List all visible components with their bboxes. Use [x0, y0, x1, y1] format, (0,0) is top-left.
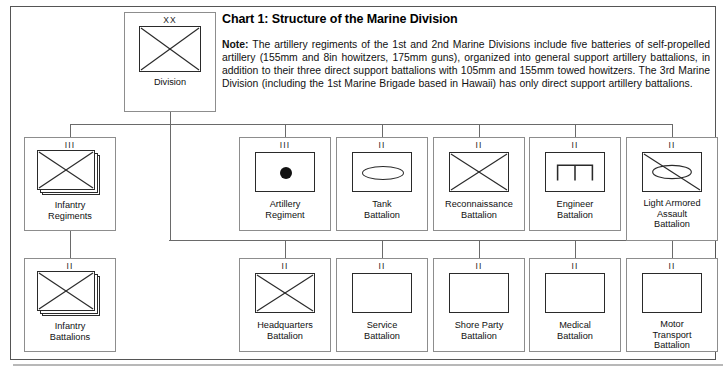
symbol-reconnaissance-battalion [449, 152, 509, 194]
cross-infantry-icon [38, 151, 94, 189]
unit-cell-shore-party-battalion[interactable]: II Shore PartyBattalion [433, 258, 525, 352]
note-label: Note: [222, 39, 249, 50]
symbol-headquarters-battalion [255, 273, 315, 315]
chart-note: Note: The artillery regiments of the 1st… [222, 38, 710, 90]
unit-cell-engineer-battalion[interactable]: II EngineerBattalion [529, 137, 621, 231]
unit-label-medical-battalion: MedicalBattalion [557, 320, 593, 341]
unit-cell-division[interactable]: XX Division [124, 12, 216, 112]
connector-drop-infantry-regiments [70, 124, 71, 137]
echelon-label-light-armored-assault-battalion: II [668, 141, 675, 150]
connector-infantry-regiments-to-battalions [70, 231, 71, 258]
unit-cell-headquarters-battalion[interactable]: II HeadquartersBattalion [239, 258, 331, 352]
unit-cell-reconnaissance-battalion[interactable]: II ReconnaissanceBattalion [433, 137, 525, 231]
cross-infantry-icon [140, 27, 200, 71]
unit-label-infantry-battalions: InfantryBattalions [50, 321, 90, 342]
symbol-shore-party-battalion [449, 273, 509, 315]
echelon-label-shore-party-battalion: II [475, 262, 482, 271]
cross-infantry-icon [256, 274, 314, 312]
unit-cell-infantry-battalions[interactable]: II InfantryBattalions [24, 258, 116, 352]
engineer-bridge-icon [546, 153, 604, 191]
unit-label-service-battalion: ServiceBattalion [364, 320, 400, 341]
unit-cell-medical-battalion[interactable]: II MedicalBattalion [529, 258, 621, 352]
unit-label-headquarters-battalion: HeadquartersBattalion [257, 320, 313, 341]
unit-label-artillery-regiment: ArtilleryRegiment [265, 199, 304, 220]
unit-label-division: Division [154, 77, 186, 88]
ellipse-diagonal-light-armor-icon [643, 153, 701, 191]
plain-box-icon [352, 273, 412, 313]
symbol-division [139, 26, 201, 72]
echelon-label-artillery-regiment: III [280, 141, 291, 150]
connector-bus-level1 [70, 124, 672, 125]
symbol-infantry-regiments [37, 150, 103, 198]
echelon-label-reconnaissance-battalion: II [475, 141, 482, 150]
symbol-infantry-battalions [37, 271, 103, 319]
marine-division-chart: Chart 1: Structure of the Marine Divisio… [0, 0, 728, 376]
symbol-motor-transport-battalion [642, 273, 702, 315]
unit-label-light-armored-assault-battalion: Light ArmoredAssaultBattalion [643, 198, 700, 230]
plain-box-icon [449, 273, 509, 313]
unit-label-engineer-battalion: EngineerBattalion [557, 199, 594, 220]
unit-cell-infantry-regiments[interactable]: III InfantryRegiments [24, 137, 116, 231]
symbol-service-battalion [352, 273, 412, 315]
unit-cell-service-battalion[interactable]: II ServiceBattalion [336, 258, 428, 352]
plain-box-icon [642, 273, 702, 313]
echelon-label-headquarters-battalion: II [281, 262, 288, 271]
filled-dot-artillery-icon [280, 167, 292, 179]
echelon-label-infantry-regiments: III [65, 141, 76, 150]
unit-cell-light-armored-assault-battalion[interactable]: II Light ArmoredAssaultBattalion [626, 137, 718, 241]
echelon-label-division: XX [163, 16, 177, 25]
unit-label-reconnaissance-battalion: ReconnaissanceBattalion [445, 199, 513, 220]
note-body: The artillery regiments of the 1st and 2… [222, 39, 710, 89]
connector-drop-light-armored-battalion [672, 124, 673, 137]
ellipse-armor-icon [362, 166, 404, 180]
unit-cell-tank-battalion[interactable]: II TankBattalion [336, 137, 428, 231]
connector-bus-level2 [169, 240, 672, 241]
plain-box-icon [545, 273, 605, 313]
symbol-medical-battalion [545, 273, 605, 315]
connector-drop-medical-battalion [575, 240, 576, 258]
echelon-label-service-battalion: II [378, 262, 385, 271]
connector-drop-tank-battalion [382, 124, 383, 137]
unit-label-infantry-regiments: InfantryRegiments [48, 200, 92, 221]
connector-drop-service-battalion [382, 240, 383, 258]
unit-label-tank-battalion: TankBattalion [364, 199, 400, 220]
symbol-engineer-battalion [545, 152, 605, 194]
unit-label-motor-transport-battalion: MotorTransportBattalion [653, 319, 692, 351]
symbol-artillery-regiment [255, 152, 315, 194]
echelon-label-tank-battalion: II [378, 141, 385, 150]
connector-left-riser [170, 124, 171, 241]
cross-infantry-icon [450, 153, 508, 191]
connector-drop-motor-transport-battalion [672, 240, 673, 258]
unit-label-shore-party-battalion: Shore PartyBattalion [455, 320, 504, 341]
symbol-tank-battalion [352, 152, 412, 194]
connector-drop-headquarters-battalion [285, 240, 286, 258]
connector-drop-reconnaissance-battalion [479, 124, 480, 137]
symbol-light-armored-assault-battalion [642, 152, 702, 194]
unit-cell-artillery-regiment[interactable]: III ArtilleryRegiment [239, 137, 331, 231]
connector-drop-shore-party-battalion [479, 240, 480, 258]
chart-title: Chart 1: Structure of the Marine Divisio… [222, 12, 710, 26]
connector-drop-engineer-battalion [575, 124, 576, 137]
frame-shadow [13, 364, 723, 366]
echelon-label-motor-transport-battalion: II [668, 262, 675, 271]
echelon-label-engineer-battalion: II [571, 141, 578, 150]
echelon-label-medical-battalion: II [571, 262, 578, 271]
connector-drop-artillery-regiment [285, 124, 286, 137]
cross-infantry-icon [38, 272, 94, 310]
unit-cell-motor-transport-battalion[interactable]: II MotorTransportBattalion [626, 258, 718, 352]
chart-header: Chart 1: Structure of the Marine Divisio… [222, 12, 710, 90]
echelon-label-infantry-battalions: II [66, 262, 73, 271]
